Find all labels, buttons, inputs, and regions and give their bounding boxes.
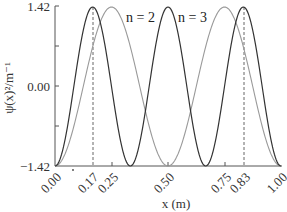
x-tick-label-0-83: 0.83 xyxy=(226,170,253,197)
series-label-n3: n = 3 xyxy=(178,10,207,25)
y-tick-label-mid: 0.00 xyxy=(27,79,50,94)
series-n3-curve xyxy=(55,7,281,166)
x-tick-label-0-25: 0.25 xyxy=(94,170,121,197)
y-tick-label-bottom: −1.42 xyxy=(20,159,50,174)
y-axis-title: ψ(x)²/m⁻¹ xyxy=(1,62,16,114)
x-tick-label-0-50: 0.50 xyxy=(150,170,177,197)
x-tick-label-1-00: 1.00 xyxy=(263,170,287,197)
series-n2-curve xyxy=(55,7,281,166)
y-tick-label-top: 1.42 xyxy=(27,0,50,14)
wavefunction-chart: 1.42 0.00 −1.42 ψ(x)²/m⁻¹ 0.00 0.17 0.25… xyxy=(0,0,287,212)
x-axis-title: x (m) xyxy=(162,196,191,211)
x-minor-dot xyxy=(72,169,74,171)
series-label-n2: n = 2 xyxy=(126,10,155,25)
